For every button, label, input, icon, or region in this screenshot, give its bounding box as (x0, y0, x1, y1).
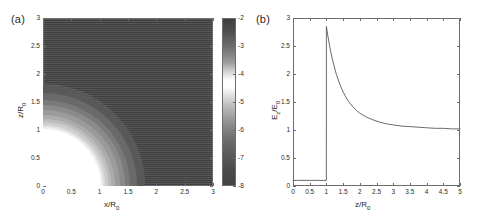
panel-a-xaxis-title-text: x/R (104, 200, 116, 209)
figure-root: (a) 00.511.522.5300.511.522.53 x/R0 z/R0… (0, 0, 490, 220)
colorbar-tick-label: -6 (238, 127, 244, 134)
y-tick-label: 1 (17, 127, 40, 134)
y-tick-right (210, 18, 213, 19)
x-tick-top (393, 18, 394, 21)
panel-b-yaxis-title-sub: z (275, 112, 281, 115)
panel-a-yaxis-title: z/R0 (16, 103, 27, 118)
x-tick-top (71, 18, 72, 21)
y-tick (293, 74, 296, 75)
x-tick-label: 2 (144, 189, 168, 196)
y-tick (43, 46, 46, 47)
colorbar-tick (233, 18, 236, 19)
y-tick-right (457, 130, 460, 131)
panel-a-yaxis-title-sub: 0 (21, 103, 27, 106)
x-tick-top (326, 18, 327, 21)
x-tick (427, 183, 428, 186)
y-tick-label: 3 (17, 15, 40, 22)
colorbar-tick (233, 186, 236, 187)
colorbar-tick-label: -7 (238, 155, 244, 162)
y-tick (293, 186, 296, 187)
panel-a-xaxis-title: x/R0 (104, 200, 119, 211)
x-tick (360, 183, 361, 186)
y-tick (293, 46, 296, 47)
x-tick-top (343, 18, 344, 21)
y-tick-label: 2 (267, 71, 290, 78)
x-tick-label: 1 (88, 189, 112, 196)
colorbar-tick (233, 46, 236, 47)
colorbar-tick (233, 74, 236, 75)
x-tick (460, 183, 461, 186)
x-tick-label: 1.5 (116, 189, 140, 196)
x-tick (393, 183, 394, 186)
x-tick-top (156, 18, 157, 21)
panel-b-yaxis-title-tail-sub: 0 (275, 101, 281, 104)
x-tick-label: 0.5 (59, 189, 83, 196)
y-tick-label: 0.5 (17, 155, 40, 162)
y-tick-label: 2.5 (17, 43, 40, 50)
y-tick (43, 74, 46, 75)
x-tick-label: 0 (31, 189, 55, 196)
y-tick-right (457, 186, 460, 187)
y-tick-right (457, 102, 460, 103)
y-tick-right (210, 46, 213, 47)
x-tick-top (427, 18, 428, 21)
y-tick-label: 1 (267, 127, 290, 134)
panel-a-yaxis-title-text: z/R (16, 106, 25, 118)
y-tick (43, 186, 46, 187)
y-tick-right (210, 186, 213, 187)
y-tick-label: 2 (17, 71, 40, 78)
x-tick (185, 183, 186, 186)
colorbar-tick (233, 130, 236, 131)
x-tick-label: 2.5 (173, 189, 197, 196)
y-tick-right (210, 102, 213, 103)
x-tick-top (377, 18, 378, 21)
x-tick-top (360, 18, 361, 21)
x-tick (310, 183, 311, 186)
panel-b-yaxis-title-text: E (270, 115, 279, 120)
y-tick-label: 3 (267, 15, 290, 22)
y-tick (293, 130, 296, 131)
y-tick (293, 18, 296, 19)
colorbar-tick (233, 158, 236, 159)
colorbar-tick-label: -5 (238, 99, 244, 106)
x-tick (326, 183, 327, 186)
y-tick-label: 0 (17, 183, 40, 190)
x-tick-top (128, 18, 129, 21)
colorbar-tick-label: -3 (238, 43, 244, 50)
y-tick (293, 102, 296, 103)
y-tick-right (457, 74, 460, 75)
y-tick-right (210, 74, 213, 75)
panel-b-xaxis-title-text: z/R (355, 200, 367, 209)
colorbar-tick-label: -4 (238, 71, 244, 78)
x-tick-top (460, 18, 461, 21)
y-tick-right (210, 158, 213, 159)
y-tick-label: 0.5 (267, 155, 290, 162)
x-tick-label: 5 (448, 189, 472, 196)
x-tick-top (410, 18, 411, 21)
panel-b-frame (293, 18, 460, 186)
panel-a-xaxis-title-sub: 0 (116, 205, 119, 211)
x-tick-top (443, 18, 444, 21)
colorbar-tick-label: -8 (238, 183, 244, 190)
y-tick-label: 0 (267, 183, 290, 190)
x-tick (213, 183, 214, 186)
y-tick-right (457, 158, 460, 159)
panel-b-yaxis-title: Ez/E0 (270, 101, 281, 120)
x-tick-top (213, 18, 214, 21)
y-tick-right (457, 46, 460, 47)
y-tick-right (210, 130, 213, 131)
y-tick (43, 18, 46, 19)
x-tick (343, 183, 344, 186)
x-tick (410, 183, 411, 186)
x-tick-top (310, 18, 311, 21)
x-tick (443, 183, 444, 186)
y-tick-right (457, 18, 460, 19)
x-tick (377, 183, 378, 186)
panel-b-xaxis-title: z/R0 (355, 200, 370, 211)
panel-b-xaxis-title-sub: 0 (367, 205, 370, 211)
y-tick-label: 2.5 (267, 43, 290, 50)
panel-b-yaxis-title-tail: /E (270, 104, 279, 112)
y-tick (293, 158, 296, 159)
x-tick-top (100, 18, 101, 21)
x-tick-label: 3 (201, 189, 225, 196)
